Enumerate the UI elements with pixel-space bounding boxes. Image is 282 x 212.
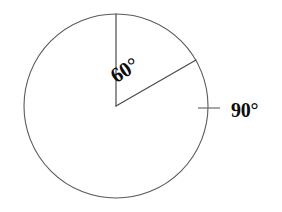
inner-angle-label-group: 60°	[106, 52, 143, 87]
geometry-diagram-canvas: 60° 90°	[0, 0, 282, 212]
inner-angle-label: 60°	[106, 52, 143, 87]
outer-angle-label: 90°	[231, 99, 259, 121]
circle-angle-figure: 60° 90°	[0, 0, 282, 212]
